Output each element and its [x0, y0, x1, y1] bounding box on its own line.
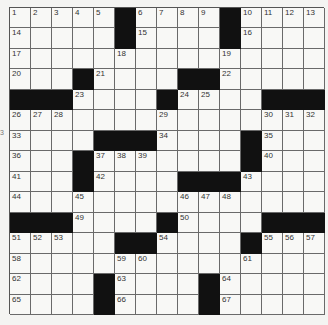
- grid-cell[interactable]: [178, 110, 199, 130]
- grid-cell[interactable]: [31, 131, 52, 151]
- grid-cell[interactable]: [73, 110, 94, 130]
- grid-cell[interactable]: [136, 69, 157, 89]
- grid-cell[interactable]: [115, 213, 136, 233]
- grid-cell[interactable]: 12: [283, 8, 304, 28]
- grid-cell[interactable]: 5: [94, 8, 115, 28]
- grid-cell[interactable]: [304, 274, 325, 294]
- grid-cell[interactable]: 25: [199, 90, 220, 110]
- grid-cell[interactable]: [199, 233, 220, 253]
- grid-cell[interactable]: [157, 151, 178, 171]
- grid-cell[interactable]: [220, 233, 241, 253]
- grid-cell[interactable]: 2: [31, 8, 52, 28]
- grid-cell[interactable]: [199, 110, 220, 130]
- grid-cell[interactable]: [136, 274, 157, 294]
- grid-cell[interactable]: [220, 131, 241, 151]
- grid-cell[interactable]: 52: [31, 233, 52, 253]
- grid-cell[interactable]: [304, 69, 325, 89]
- grid-cell[interactable]: [283, 295, 304, 315]
- grid-cell[interactable]: [283, 274, 304, 294]
- grid-cell[interactable]: [178, 254, 199, 274]
- grid-cell[interactable]: [136, 172, 157, 192]
- grid-cell[interactable]: [31, 295, 52, 315]
- grid-cell[interactable]: 16: [241, 28, 262, 48]
- grid-cell[interactable]: [304, 151, 325, 171]
- grid-cell[interactable]: [31, 28, 52, 48]
- grid-cell[interactable]: [52, 254, 73, 274]
- grid-cell[interactable]: [241, 295, 262, 315]
- grid-cell[interactable]: [115, 110, 136, 130]
- grid-cell[interactable]: [241, 274, 262, 294]
- grid-cell[interactable]: [199, 49, 220, 69]
- grid-cell[interactable]: [262, 172, 283, 192]
- grid-cell[interactable]: 3: [52, 8, 73, 28]
- grid-cell[interactable]: [73, 28, 94, 48]
- grid-cell[interactable]: [199, 254, 220, 274]
- grid-cell[interactable]: [178, 233, 199, 253]
- grid-cell[interactable]: [283, 49, 304, 69]
- grid-cell[interactable]: [304, 192, 325, 212]
- grid-cell[interactable]: [136, 110, 157, 130]
- grid-cell[interactable]: [73, 233, 94, 253]
- grid-cell[interactable]: 62: [10, 274, 31, 294]
- grid-cell[interactable]: 22: [220, 69, 241, 89]
- grid-cell[interactable]: [199, 213, 220, 233]
- grid-cell[interactable]: [157, 274, 178, 294]
- grid-cell[interactable]: 27: [31, 110, 52, 130]
- grid-cell[interactable]: [52, 295, 73, 315]
- grid-cell[interactable]: [136, 192, 157, 212]
- grid-cell[interactable]: [94, 233, 115, 253]
- grid-cell[interactable]: [262, 69, 283, 89]
- grid-cell[interactable]: [73, 295, 94, 315]
- grid-cell[interactable]: 39: [136, 151, 157, 171]
- grid-cell[interactable]: [178, 295, 199, 315]
- grid-cell[interactable]: 65: [10, 295, 31, 315]
- grid-cell[interactable]: [199, 28, 220, 48]
- grid-cell[interactable]: [115, 192, 136, 212]
- grid-cell[interactable]: [220, 254, 241, 274]
- grid-cell[interactable]: [73, 49, 94, 69]
- grid-cell[interactable]: [241, 110, 262, 130]
- grid-cell[interactable]: 21: [94, 69, 115, 89]
- grid-cell[interactable]: [115, 90, 136, 110]
- grid-cell[interactable]: [304, 131, 325, 151]
- grid-cell[interactable]: [94, 49, 115, 69]
- grid-cell[interactable]: 8: [178, 8, 199, 28]
- grid-cell[interactable]: [136, 90, 157, 110]
- grid-cell[interactable]: 40: [262, 151, 283, 171]
- grid-cell[interactable]: 11: [262, 8, 283, 28]
- grid-cell[interactable]: [52, 192, 73, 212]
- grid-cell[interactable]: [283, 192, 304, 212]
- grid-cell[interactable]: 42: [94, 172, 115, 192]
- grid-cell[interactable]: [52, 274, 73, 294]
- grid-cell[interactable]: 1: [10, 8, 31, 28]
- grid-cell[interactable]: [283, 254, 304, 274]
- grid-cell[interactable]: 36: [10, 151, 31, 171]
- grid-cell[interactable]: [283, 172, 304, 192]
- grid-cell[interactable]: 66: [115, 295, 136, 315]
- grid-cell[interactable]: [52, 28, 73, 48]
- grid-cell[interactable]: [52, 49, 73, 69]
- grid-cell[interactable]: 50: [178, 213, 199, 233]
- grid-cell[interactable]: [94, 254, 115, 274]
- grid-cell[interactable]: [220, 110, 241, 130]
- grid-cell[interactable]: 20: [10, 69, 31, 89]
- grid-cell[interactable]: 56: [283, 233, 304, 253]
- grid-cell[interactable]: [220, 151, 241, 171]
- grid-cell[interactable]: [262, 254, 283, 274]
- grid-cell[interactable]: 31: [283, 110, 304, 130]
- grid-cell[interactable]: 63: [115, 274, 136, 294]
- grid-cell[interactable]: 6: [136, 8, 157, 28]
- grid-cell[interactable]: 41: [10, 172, 31, 192]
- grid-cell[interactable]: 51: [10, 233, 31, 253]
- grid-cell[interactable]: [52, 69, 73, 89]
- grid-cell[interactable]: 53: [52, 233, 73, 253]
- grid-cell[interactable]: 54: [157, 233, 178, 253]
- grid-cell[interactable]: [304, 295, 325, 315]
- grid-cell[interactable]: 59: [115, 254, 136, 274]
- grid-cell[interactable]: [73, 254, 94, 274]
- grid-cell[interactable]: [178, 49, 199, 69]
- grid-cell[interactable]: 32: [304, 110, 325, 130]
- grid-cell[interactable]: [157, 28, 178, 48]
- grid-cell[interactable]: [178, 131, 199, 151]
- grid-cell[interactable]: [304, 172, 325, 192]
